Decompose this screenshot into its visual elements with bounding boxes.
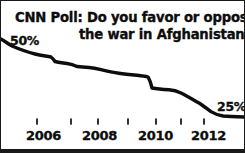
x-axis-label-2010: 2010: [138, 128, 173, 143]
x-axis-label-2006: 2006: [26, 128, 61, 143]
y-axis-label-bottom: 25%: [217, 99, 245, 114]
hand-drawn-line-chart: CNN Poll: Do you favor or oppose the war…: [1, 1, 245, 153]
chart-title-line-2: the war in Afghanistan?: [79, 27, 245, 42]
poll-trend-line: [1, 39, 245, 117]
x-axis-label-2008: 2008: [82, 128, 117, 143]
x-axis-label-2012: 2012: [191, 128, 226, 143]
chart-container: CNN Poll: Do you favor or oppose the war…: [0, 0, 245, 153]
chart-title-line-1: CNN Poll: Do you favor or oppose: [15, 10, 245, 25]
